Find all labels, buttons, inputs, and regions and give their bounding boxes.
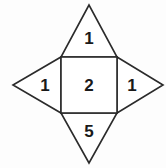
- left-triangle-shape: [13, 57, 61, 113]
- right-triangle-label: 1: [127, 76, 136, 95]
- bottom-triangle-label: 5: [84, 122, 93, 141]
- net-diagram-svg: 1 1 2 1 5: [0, 0, 166, 168]
- figure-canvas: 1 1 2 1 5: [0, 0, 166, 168]
- right-triangle-shape: [117, 57, 163, 113]
- top-triangle-label: 1: [84, 29, 93, 48]
- left-triangle-label: 1: [40, 76, 49, 95]
- center-square-label: 2: [84, 76, 93, 95]
